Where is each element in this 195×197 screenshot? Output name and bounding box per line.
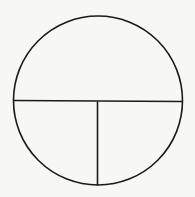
horizontal-divider-line [14, 101, 183, 102]
diagram-canvas [0, 0, 195, 197]
divided-circle-diagram [0, 0, 195, 197]
